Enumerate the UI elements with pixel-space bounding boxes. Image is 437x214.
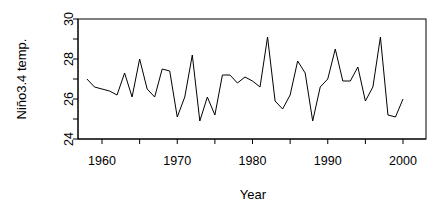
chart-figure: 24262830 19601970198019902000 Niño3.4 te… [0,0,437,214]
y-axis-tick-label: 24 [62,132,76,146]
x-axis-tick-label: 2000 [389,154,417,168]
y-axis-title: Niño3.4 temp. [14,39,29,120]
y-axis-tick-label: 28 [62,52,76,66]
y-axis-tick-label: 26 [62,92,76,106]
x-axis-tick-label: 1980 [239,154,267,168]
figure-background [0,0,437,214]
nino34-temperature-line-chart: 24262830 19601970198019902000 Niño3.4 te… [0,0,437,214]
x-axis-title: Year [240,187,267,202]
y-axis-tick-label: 30 [62,12,76,26]
x-axis-tick-label: 1960 [88,154,116,168]
x-axis-tick-label: 1990 [314,154,342,168]
x-axis-tick-label: 1970 [163,154,191,168]
